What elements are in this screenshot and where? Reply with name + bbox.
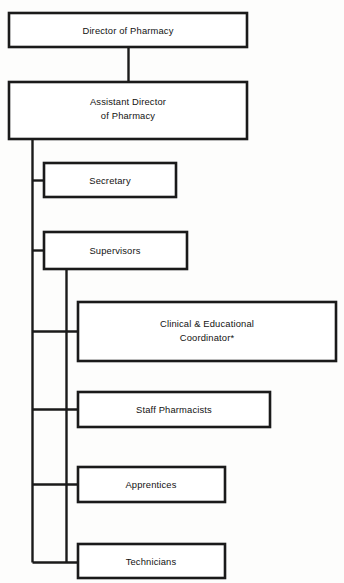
- node-staff-pharmacists-label: Staff Pharmacists: [136, 404, 212, 415]
- node-director[interactable]: Director of Pharmacy: [9, 13, 247, 47]
- node-director-label: Director of Pharmacy: [82, 25, 173, 36]
- node-coordinator-label-line1: Clinical & Educational: [160, 318, 254, 329]
- node-assistant-director-label-line1: Assistant Director: [90, 96, 166, 107]
- node-coordinator-label-line2: Coordinator*: [180, 332, 235, 343]
- org-chart-canvas: Director of Pharmacy Assistant Director …: [0, 0, 344, 583]
- node-staff-pharmacists[interactable]: Staff Pharmacists: [78, 392, 270, 427]
- node-apprentices[interactable]: Apprentices: [78, 467, 225, 502]
- node-assistant-director[interactable]: Assistant Director of Pharmacy: [9, 82, 247, 139]
- node-secretary-label: Secretary: [89, 175, 131, 186]
- node-supervisors[interactable]: Supervisors: [44, 232, 187, 269]
- node-assistant-director-label-line2: of Pharmacy: [101, 110, 155, 121]
- node-technicians[interactable]: Technicians: [78, 544, 225, 578]
- org-chart: Director of Pharmacy Assistant Director …: [0, 0, 344, 583]
- node-apprentices-label: Apprentices: [125, 479, 176, 490]
- node-secretary[interactable]: Secretary: [44, 163, 176, 197]
- node-coordinator[interactable]: Clinical & Educational Coordinator*: [78, 302, 336, 361]
- node-technicians-label: Technicians: [126, 556, 177, 567]
- node-supervisors-label: Supervisors: [89, 245, 140, 256]
